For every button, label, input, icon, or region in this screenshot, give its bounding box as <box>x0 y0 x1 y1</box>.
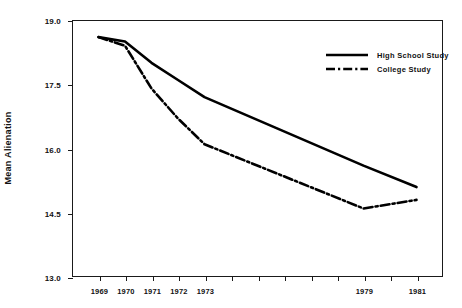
y-axis-title: Mean Alienation <box>3 111 13 184</box>
x-tick-label: 1973 <box>197 287 215 296</box>
chart-figure: Mean Alienation 19.017.516.014.513.0 196… <box>0 0 462 308</box>
legend-label: College Study <box>377 65 431 74</box>
y-tick-label: 14.5 <box>45 209 61 218</box>
y-tick-label: 16.0 <box>45 145 61 154</box>
x-tick-mark <box>153 276 154 281</box>
x-tick-label: 1972 <box>170 287 188 296</box>
legend-line-swatch <box>325 49 369 61</box>
x-tick-label: 1971 <box>144 287 162 296</box>
x-tick-mark <box>285 276 286 281</box>
x-tick-mark <box>179 276 180 281</box>
x-tick-label: 1979 <box>356 287 374 296</box>
x-tick-label: 1970 <box>117 287 135 296</box>
x-tick-mark <box>100 276 101 281</box>
legend-label: High School Study <box>377 51 449 60</box>
legend-item: High School Study <box>325 48 449 62</box>
legend-item: College Study <box>325 62 449 76</box>
x-tick-mark <box>126 276 127 281</box>
x-tick-mark <box>338 276 339 281</box>
y-tick-mark <box>68 278 73 279</box>
chart-legend: High School StudyCollege Study <box>325 48 449 76</box>
x-tick-mark <box>365 276 366 281</box>
y-tick-label: 17.5 <box>45 81 61 90</box>
x-tick-mark <box>391 276 392 281</box>
x-tick-mark <box>418 276 419 281</box>
x-tick-mark <box>312 276 313 281</box>
y-tick-mark <box>68 85 73 86</box>
y-tick-label: 13.0 <box>45 274 61 283</box>
y-tick-label: 19.0 <box>45 17 61 26</box>
y-tick-mark <box>68 214 73 215</box>
x-tick-label: 1969 <box>91 287 109 296</box>
x-tick-mark <box>259 276 260 281</box>
legend-line-swatch <box>325 63 369 75</box>
y-tick-mark <box>68 21 73 22</box>
x-tick-label: 1981 <box>409 287 427 296</box>
x-tick-mark <box>206 276 207 281</box>
y-tick-mark <box>68 150 73 151</box>
x-tick-mark <box>232 276 233 281</box>
